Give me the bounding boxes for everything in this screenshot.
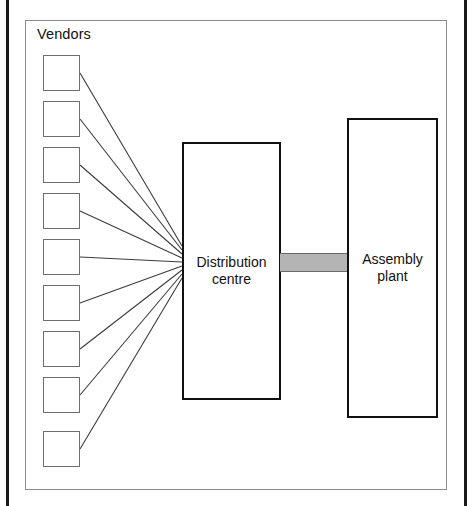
dc-label-line1: Distribution [196,254,266,270]
node-distribution-centre[interactable]: Distribution centre [182,142,281,400]
vendor-box-9[interactable] [43,431,80,467]
figure-canvas: Vendors Distribution centre Assembly pla… [0,0,474,506]
vendor-box-6[interactable] [43,285,80,321]
figure-title-vendors: Vendors [37,26,91,42]
page-edge-rule-left [6,0,9,506]
vendor-box-7[interactable] [43,331,80,367]
node-distribution-centre-label: Distribution centre [196,254,266,288]
ap-label-line2: plant [377,268,407,284]
dc-label-line2: centre [212,271,251,287]
vendor-box-2[interactable] [43,101,80,137]
vendor-box-1[interactable] [43,55,80,91]
node-assembly-plant[interactable]: Assembly plant [347,118,438,418]
conveyor-link [280,253,349,272]
vendor-box-3[interactable] [43,147,80,183]
page-edge-rule-right [464,0,467,506]
vendor-box-4[interactable] [43,193,80,229]
vendor-box-8[interactable] [43,377,80,413]
ap-label-line1: Assembly [362,251,423,267]
vendor-box-5[interactable] [43,239,80,275]
node-assembly-plant-label: Assembly plant [362,251,423,285]
